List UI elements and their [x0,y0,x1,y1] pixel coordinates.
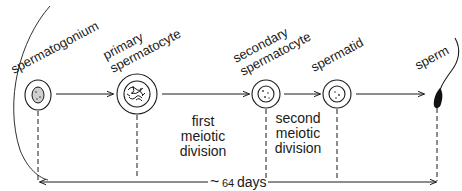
spermatid-cell [323,80,351,108]
svg-text:division: division [275,140,322,156]
svg-text:~: ~ [210,173,219,190]
label-spermatogonium: spermatogonium [8,18,101,77]
secondary-spermatocyte-cell [252,80,280,108]
svg-text:64: 64 [222,177,234,189]
svg-text:first: first [192,113,215,129]
svg-text:days: days [237,174,267,190]
svg-text:meiotic: meiotic [276,125,320,141]
primary-spermatocyte-cell [117,74,157,114]
svg-text:second: second [275,110,320,126]
svg-text:spermatid: spermatid [308,35,365,75]
stage-dashed-lines [38,108,437,181]
duration-label: ~ 64 days [210,173,267,190]
spermatogonium-cell [25,80,51,110]
svg-text:sperm: sperm [412,42,451,72]
label-sperm: sperm [412,42,451,72]
svg-text:spermatogonium: spermatogonium [8,18,101,77]
label-secondary-spermatocyte: secondary spermatocyte [230,24,313,79]
label-first-meiotic-division: first meiotic division [180,113,227,159]
label-spermatid: spermatid [308,35,365,75]
label-primary-spermatocyte: primary spermatocyte [100,26,183,76]
svg-text:meiotic: meiotic [181,128,225,144]
svg-text:division: division [180,143,227,159]
spermatogenesis-diagram: spermatogonium primary spermatocyte seco… [0,0,462,191]
label-second-meiotic-division: second meiotic division [275,110,322,156]
